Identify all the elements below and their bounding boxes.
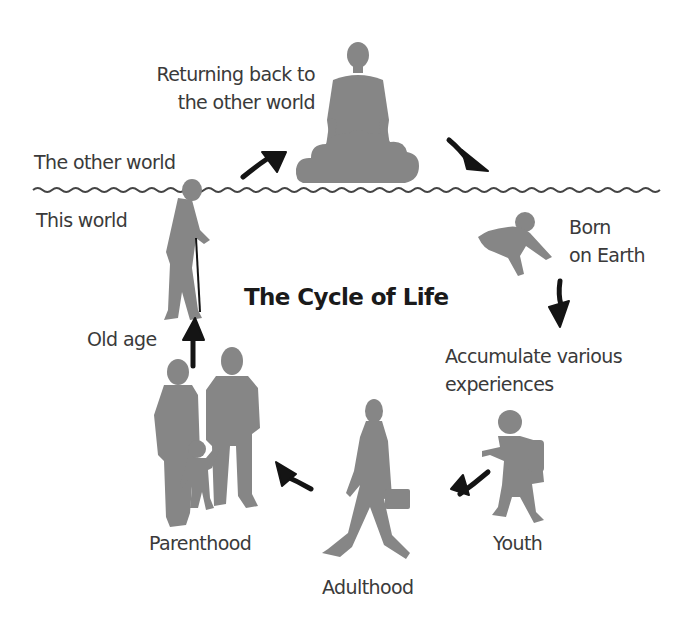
realm-label-other-world: The other world [34,148,175,176]
stage-label-adulthood: Adulthood [322,573,413,601]
crawling-baby-figure [478,212,552,276]
arrow-to-old-age-icon [183,318,204,366]
label-line: the other world [140,88,315,116]
stage-label-parenthood: Parenthood [149,529,251,557]
stage-label-born: Born on Earth [569,213,645,269]
label-line: Returning back to [140,60,315,88]
arrow-to-parenthood-icon [276,462,311,489]
stage-label-accumulate: Accumulate various experiences [445,342,622,398]
arrow-to-adulthood-icon [451,472,488,495]
cycle-artwork [0,0,688,634]
label-line: experiences [445,370,622,398]
diagram-title: The Cycle of Life [244,284,448,310]
family-figure [154,347,260,527]
label-line: on Earth [569,241,645,269]
stage-label-return: Returning back to the other world [140,60,315,116]
arrow-to-born-icon [449,140,488,171]
stage-label-old-age: Old age [87,325,157,353]
walking-adult-figure [322,399,410,559]
label-line: Accumulate various [445,342,622,370]
elderly-man-figure [164,179,210,320]
realm-label-this-world: This world [36,206,127,234]
walking-child-figure [482,410,544,523]
stage-label-youth: Youth [493,529,542,557]
label-line: Born [569,213,645,241]
world-divider-wavy-line [33,188,660,192]
arrow-to-accumulate-icon [549,281,569,327]
arrow-to-other-world-icon [243,152,286,177]
